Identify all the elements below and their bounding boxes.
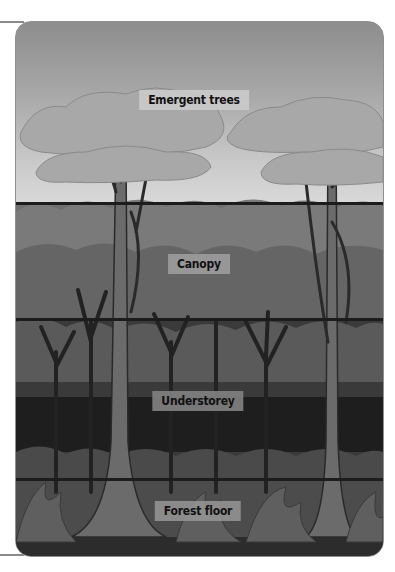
layer-divider-emergent-canopy xyxy=(16,202,383,205)
label-emergent-trees: Emergent trees xyxy=(139,90,249,110)
layer-divider-canopy-understorey xyxy=(16,318,383,321)
rainforest-layers-diagram: Emergent trees Canopy Understorey Forest… xyxy=(15,21,384,557)
label-understorey: Understorey xyxy=(152,391,243,411)
layer-divider-understorey-floor xyxy=(16,478,383,481)
label-forest-floor: Forest floor xyxy=(155,501,241,521)
label-canopy: Canopy xyxy=(168,254,230,274)
